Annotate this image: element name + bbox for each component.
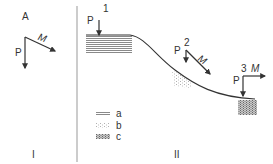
station2-p-label: P bbox=[174, 46, 181, 56]
vector-p-label: P bbox=[15, 48, 22, 58]
deposit-b bbox=[172, 70, 192, 88]
deposit-a bbox=[86, 36, 132, 53]
legend-label-b: b bbox=[116, 121, 122, 131]
deposit-c bbox=[238, 100, 257, 115]
station3-p-label: P bbox=[233, 76, 240, 86]
legend-label-c: c bbox=[116, 132, 121, 142]
station1-p-label: P bbox=[87, 16, 94, 26]
station3-number: 3 bbox=[241, 64, 247, 74]
legend-label-a: a bbox=[116, 109, 122, 119]
station2-number: 2 bbox=[184, 38, 190, 48]
legend-swatch-a bbox=[96, 111, 110, 116]
panel-label-I: I bbox=[32, 150, 35, 160]
station1-number: 1 bbox=[103, 4, 109, 14]
legend-swatch-b bbox=[96, 123, 110, 128]
station3-m-label: M bbox=[251, 64, 259, 74]
panel-label-II: II bbox=[174, 150, 180, 160]
point-a-label: A bbox=[22, 12, 29, 22]
legend-swatch-c bbox=[96, 134, 110, 139]
